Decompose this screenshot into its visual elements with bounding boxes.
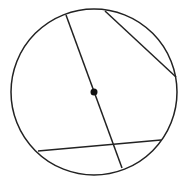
chord-bottom bbox=[38, 140, 161, 151]
circle-diagram bbox=[0, 0, 184, 180]
chord-upper-right bbox=[105, 11, 176, 77]
center-point bbox=[91, 89, 98, 96]
